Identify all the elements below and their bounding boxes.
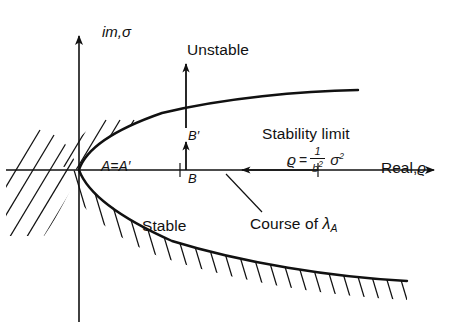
formula-denominator-exponent: 2 — [318, 159, 323, 169]
formula-numerator: 1 — [313, 146, 323, 158]
formula-lhs: ϱ — [287, 151, 296, 169]
formula-rhs-symbol: σ — [330, 151, 339, 168]
course-of-lambda-label: Course of λA — [250, 216, 338, 234]
point-label-b-prime: B′ — [188, 129, 199, 142]
formula-rhs-exponent: 2 — [339, 151, 344, 161]
lambda-subscript: A — [331, 222, 338, 234]
lambda-symbol: λ — [323, 215, 331, 232]
imaginary-axis-label: im,σ — [102, 24, 131, 39]
real-axis-label-prefix: Real, — [381, 159, 417, 176]
hatch-lower-unstable — [40, 150, 424, 310]
stable-region-label: Stable — [142, 218, 187, 234]
point-label-a: A=A′ — [101, 159, 130, 173]
stability-limit-curve-lower — [79, 170, 407, 281]
formula-rhs: σ2 — [330, 151, 344, 168]
stability-limit-formula: ϱ = 1 b2 σ2 — [287, 146, 344, 174]
unstable-region-label: Unstable — [187, 42, 249, 58]
stability-limit-figure: im,σ Real,ϱ Unstable Stable Stability li… — [0, 0, 454, 334]
point-label-b: B — [188, 172, 197, 185]
formula-equals: = — [299, 152, 307, 168]
formula-denominator: b2 — [310, 159, 325, 174]
formula-fraction: 1 b2 — [310, 146, 325, 174]
course-lambda-leader — [226, 174, 262, 212]
real-axis-label-symbol: ϱ — [417, 159, 426, 176]
real-axis-label: Real,ϱ — [381, 160, 426, 176]
course-label-prefix: Course of — [250, 215, 323, 232]
stability-limit-label: Stability limit — [262, 126, 350, 142]
